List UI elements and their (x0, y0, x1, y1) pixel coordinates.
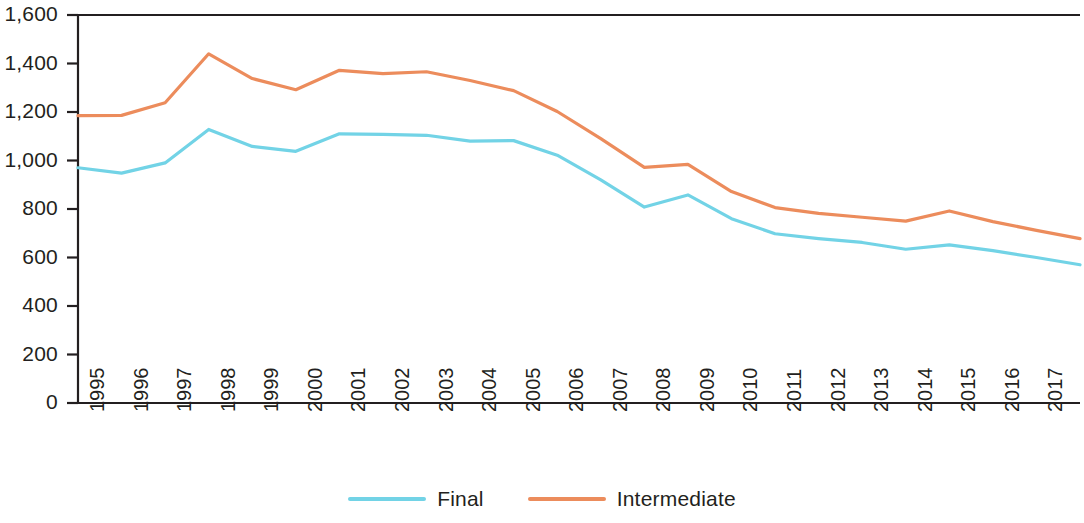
x-tick-label: 2008 (652, 368, 675, 413)
x-tick-label: 2001 (347, 368, 370, 413)
x-tick-label: 2000 (304, 368, 327, 413)
legend-item[interactable]: Intermediate (528, 487, 736, 511)
x-tick-label: 1995 (86, 368, 109, 413)
x-tick-label: 2006 (565, 368, 588, 413)
x-tick-label: 2011 (783, 369, 806, 412)
x-tick-label: 2005 (522, 368, 545, 413)
x-tick-label: 1997 (173, 368, 196, 413)
x-tick-label: 2010 (739, 368, 762, 413)
x-tick-label: 2015 (957, 368, 980, 413)
x-tick-label: 2002 (391, 368, 414, 413)
legend-line-swatch (528, 497, 606, 501)
plot-area (0, 0, 1084, 523)
legend-label: Final (437, 487, 484, 511)
legend-item[interactable]: Final (348, 487, 484, 511)
series-line-intermediate (78, 54, 1080, 239)
x-tick-label: 1996 (130, 368, 153, 413)
x-tick-label: 2007 (609, 368, 632, 413)
x-tick-label: 2009 (696, 368, 719, 413)
x-tick-label: 2016 (1001, 368, 1024, 413)
x-tick-label: 2017 (1044, 368, 1067, 413)
chart-legend: FinalIntermediate (0, 487, 1084, 511)
x-tick-label: 2014 (914, 368, 937, 413)
legend-label: Intermediate (617, 487, 736, 511)
x-tick-label: 2012 (827, 368, 850, 413)
x-tick-label: 1999 (260, 368, 283, 413)
series-line-final (78, 129, 1080, 264)
x-tick-label: 2013 (870, 368, 893, 413)
x-tick-label: 1998 (217, 368, 240, 413)
x-tick-label: 2003 (435, 368, 458, 413)
x-tick-label: 2004 (478, 368, 501, 413)
line-chart: 02004006008001,0001,2001,4001,600 199519… (0, 0, 1084, 523)
legend-line-swatch (348, 497, 426, 501)
